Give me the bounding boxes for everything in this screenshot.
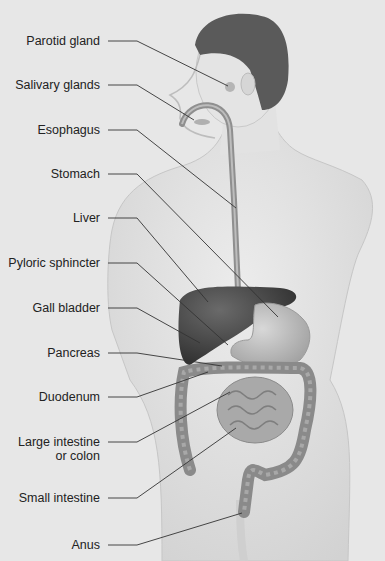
label-salivary-glands: Salivary glands <box>15 78 100 92</box>
label-esophagus: Esophagus <box>37 123 100 137</box>
salivary-gland-shape <box>194 119 210 125</box>
label-large-intestine: Large intestine <box>18 435 100 449</box>
label-pyloric-sphincter: Pyloric sphincter <box>8 256 100 270</box>
label-large-intestine-line2: or colon <box>56 449 100 463</box>
parotid-gland-shape <box>225 82 235 92</box>
label-duodenum: Duodenum <box>39 390 100 404</box>
label-gall-bladder: Gall bladder <box>33 301 100 315</box>
label-pancreas: Pancreas <box>47 346 100 360</box>
digestive-system-diagram: Parotid gland Salivary glands Esophagus … <box>0 0 385 561</box>
label-liver: Liver <box>73 211 100 225</box>
label-parotid-gland: Parotid gland <box>26 34 100 48</box>
label-small-intestine: Small intestine <box>19 491 100 505</box>
label-anus: Anus <box>72 538 101 552</box>
label-stomach: Stomach <box>51 167 100 181</box>
